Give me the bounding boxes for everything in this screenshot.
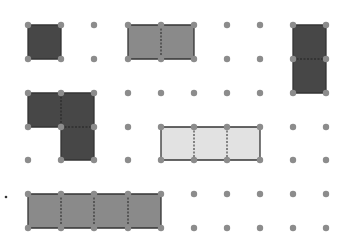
grid-dot bbox=[25, 90, 31, 96]
grid-dot bbox=[25, 124, 31, 130]
grid-dot bbox=[224, 124, 230, 130]
cell bbox=[28, 194, 61, 228]
grid-dot bbox=[125, 157, 131, 163]
grid-dot bbox=[290, 22, 296, 28]
cell bbox=[293, 59, 326, 93]
cell bbox=[28, 25, 61, 59]
grid-dot bbox=[158, 157, 164, 163]
grid-dot bbox=[290, 157, 296, 163]
grid-dot bbox=[224, 56, 230, 62]
grid-dot bbox=[91, 56, 97, 62]
grid-dot bbox=[125, 191, 131, 197]
grid-dot bbox=[323, 225, 329, 231]
grid-dot bbox=[125, 225, 131, 231]
grid-dot bbox=[125, 124, 131, 130]
dot-grid-diagram bbox=[0, 0, 340, 246]
grid-dot bbox=[290, 191, 296, 197]
grid-dot bbox=[91, 22, 97, 28]
grid-dot bbox=[91, 191, 97, 197]
grid-dot bbox=[224, 22, 230, 28]
marker-layer bbox=[5, 196, 8, 199]
grid-dot bbox=[125, 90, 131, 96]
grid-dot bbox=[224, 225, 230, 231]
grid-dot bbox=[58, 56, 64, 62]
grid-dot bbox=[25, 157, 31, 163]
grid-dot bbox=[158, 124, 164, 130]
grid-dot bbox=[257, 191, 263, 197]
cell bbox=[61, 194, 94, 228]
grid-dot bbox=[191, 191, 197, 197]
cell bbox=[61, 127, 94, 160]
grid-dot bbox=[257, 90, 263, 96]
grid-dot bbox=[91, 225, 97, 231]
grid-dot bbox=[257, 225, 263, 231]
grid-dot bbox=[125, 56, 131, 62]
cell bbox=[227, 127, 260, 160]
grid-dot bbox=[158, 56, 164, 62]
cell bbox=[128, 194, 161, 228]
grid-dot bbox=[290, 56, 296, 62]
grid-dot bbox=[158, 22, 164, 28]
grid-dot bbox=[158, 191, 164, 197]
grid-dot bbox=[323, 124, 329, 130]
grid-dot bbox=[91, 157, 97, 163]
unit-square-dark bbox=[28, 25, 61, 59]
grid-dot bbox=[323, 22, 329, 28]
grid-dot bbox=[125, 22, 131, 28]
three-cell-horizontal-light bbox=[161, 127, 260, 160]
grid-dot bbox=[191, 56, 197, 62]
grid-dot bbox=[25, 225, 31, 231]
grid-dot bbox=[191, 124, 197, 130]
grid-dot bbox=[191, 225, 197, 231]
list-bullet-dot bbox=[5, 196, 8, 199]
grid-dot bbox=[224, 191, 230, 197]
two-cell-vertical-dark bbox=[293, 25, 326, 93]
grid-dot bbox=[158, 90, 164, 96]
cell bbox=[128, 25, 161, 59]
grid-dot bbox=[191, 90, 197, 96]
four-cell-horizontal-medium bbox=[28, 194, 161, 228]
grid-dot bbox=[290, 90, 296, 96]
cell bbox=[28, 93, 61, 127]
grid-dot bbox=[58, 90, 64, 96]
grid-dot bbox=[191, 157, 197, 163]
grid-dot bbox=[91, 90, 97, 96]
cell bbox=[293, 25, 326, 59]
grid-dot bbox=[58, 191, 64, 197]
grid-dot bbox=[58, 22, 64, 28]
grid-dot bbox=[257, 56, 263, 62]
grid-dot bbox=[323, 191, 329, 197]
cell bbox=[194, 127, 227, 160]
grid-dot bbox=[25, 22, 31, 28]
grid-dot bbox=[224, 157, 230, 163]
grid-dot bbox=[323, 90, 329, 96]
grid-dot bbox=[290, 225, 296, 231]
grid-dot bbox=[191, 22, 197, 28]
grid-dot bbox=[257, 22, 263, 28]
grid-dot bbox=[58, 225, 64, 231]
cell bbox=[94, 194, 128, 228]
grid-dot bbox=[58, 157, 64, 163]
cell bbox=[161, 127, 194, 160]
grid-dot bbox=[257, 124, 263, 130]
grid-dot bbox=[91, 124, 97, 130]
grid-dot bbox=[257, 157, 263, 163]
grid-dot bbox=[25, 191, 31, 197]
two-cell-horizontal-medium bbox=[128, 25, 194, 59]
shapes-layer bbox=[28, 25, 326, 228]
cell bbox=[161, 25, 194, 59]
grid-dot bbox=[323, 157, 329, 163]
grid-dot bbox=[290, 124, 296, 130]
grid-dot bbox=[158, 225, 164, 231]
cell bbox=[61, 93, 94, 127]
grid-dot bbox=[224, 90, 230, 96]
grid-dot bbox=[25, 56, 31, 62]
grid-dot bbox=[323, 56, 329, 62]
grid-dot bbox=[58, 124, 64, 130]
